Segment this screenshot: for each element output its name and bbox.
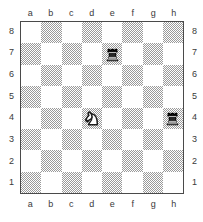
rank-label-right-6: 6 (189, 70, 200, 79)
file-label-bottom-c: c (66, 200, 77, 209)
rank-label-left-2: 2 (6, 157, 17, 166)
rank-label-right-1: 1 (189, 178, 200, 187)
file-label-bottom-d: d (86, 200, 97, 209)
black-rook-e7[interactable] (102, 43, 122, 64)
board-square-d5[interactable] (82, 86, 102, 107)
file-label-bottom-b: b (45, 200, 56, 209)
board-square-e8[interactable] (102, 22, 122, 43)
board-square-e7[interactable] (102, 43, 122, 64)
board-square-c6[interactable] (62, 65, 82, 86)
file-label-bottom-e: e (107, 200, 118, 209)
rank-label-left-1: 1 (6, 178, 17, 187)
board-square-f7[interactable] (122, 43, 142, 64)
board-square-g7[interactable] (143, 43, 163, 64)
board-square-g2[interactable] (143, 150, 163, 171)
rank-label-right-4: 4 (189, 113, 200, 122)
board-square-h5[interactable] (163, 86, 183, 107)
board-square-e5[interactable] (102, 86, 122, 107)
rank-label-left-8: 8 (6, 27, 17, 36)
board-square-c1[interactable] (62, 172, 82, 193)
board-square-f6[interactable] (122, 65, 142, 86)
board-square-d1[interactable] (82, 172, 102, 193)
board-square-f4[interactable] (122, 108, 142, 129)
file-label-bottom-f: f (127, 200, 138, 209)
board-grid (21, 22, 183, 193)
black-rook-h4[interactable] (163, 108, 183, 129)
file-label-top-b: b (45, 9, 56, 18)
board-square-g6[interactable] (143, 65, 163, 86)
board-square-a2[interactable] (21, 150, 41, 171)
board-square-d3[interactable] (82, 129, 102, 150)
rank-label-right-5: 5 (189, 92, 200, 101)
board-square-c4[interactable] (62, 108, 82, 129)
board-square-g4[interactable] (143, 108, 163, 129)
file-label-bottom-a: a (25, 200, 36, 209)
board-square-f5[interactable] (122, 86, 142, 107)
rank-label-left-3: 3 (6, 135, 17, 144)
file-label-top-g: g (148, 9, 159, 18)
board-square-h8[interactable] (163, 22, 183, 43)
chess-diagram: abcdefgh abcdefgh 87654321 87654321 (0, 0, 203, 222)
board-square-a7[interactable] (21, 43, 41, 64)
board-square-h1[interactable] (163, 172, 183, 193)
board-square-b4[interactable] (41, 108, 61, 129)
board-square-b5[interactable] (41, 86, 61, 107)
rank-label-left-7: 7 (6, 48, 17, 57)
file-label-top-f: f (127, 9, 138, 18)
board-square-a6[interactable] (21, 65, 41, 86)
board-square-h4[interactable] (163, 108, 183, 129)
white-knight-d4[interactable] (82, 108, 102, 129)
board-square-g3[interactable] (143, 129, 163, 150)
board-square-g1[interactable] (143, 172, 163, 193)
board-square-h7[interactable] (163, 43, 183, 64)
board-square-e4[interactable] (102, 108, 122, 129)
board-square-a4[interactable] (21, 108, 41, 129)
rank-label-left-6: 6 (6, 70, 17, 79)
board-square-d8[interactable] (82, 22, 102, 43)
file-label-top-a: a (25, 9, 36, 18)
board-square-f1[interactable] (122, 172, 142, 193)
board-square-b8[interactable] (41, 22, 61, 43)
board-square-b1[interactable] (41, 172, 61, 193)
chess-board (20, 21, 184, 194)
file-label-top-h: h (168, 9, 179, 18)
file-label-bottom-h: h (168, 200, 179, 209)
board-square-f8[interactable] (122, 22, 142, 43)
board-square-b2[interactable] (41, 150, 61, 171)
board-square-e2[interactable] (102, 150, 122, 171)
board-square-g8[interactable] (143, 22, 163, 43)
rank-label-right-7: 7 (189, 48, 200, 57)
board-square-h3[interactable] (163, 129, 183, 150)
board-square-a1[interactable] (21, 172, 41, 193)
board-square-c5[interactable] (62, 86, 82, 107)
board-square-c7[interactable] (62, 43, 82, 64)
board-square-e6[interactable] (102, 65, 122, 86)
board-square-d6[interactable] (82, 65, 102, 86)
rank-label-right-2: 2 (189, 157, 200, 166)
board-square-c8[interactable] (62, 22, 82, 43)
board-square-a8[interactable] (21, 22, 41, 43)
board-square-b7[interactable] (41, 43, 61, 64)
board-square-f2[interactable] (122, 150, 142, 171)
rank-label-left-5: 5 (6, 92, 17, 101)
board-square-g5[interactable] (143, 86, 163, 107)
board-square-h6[interactable] (163, 65, 183, 86)
file-label-top-d: d (86, 9, 97, 18)
file-label-top-c: c (66, 9, 77, 18)
board-square-a5[interactable] (21, 86, 41, 107)
rank-label-right-8: 8 (189, 27, 200, 36)
board-square-d2[interactable] (82, 150, 102, 171)
board-square-d4[interactable] (82, 108, 102, 129)
board-square-e1[interactable] (102, 172, 122, 193)
board-square-h2[interactable] (163, 150, 183, 171)
board-square-c3[interactable] (62, 129, 82, 150)
board-square-f3[interactable] (122, 129, 142, 150)
rank-label-left-4: 4 (6, 113, 17, 122)
board-square-d7[interactable] (82, 43, 102, 64)
file-label-bottom-g: g (148, 200, 159, 209)
board-square-e3[interactable] (102, 129, 122, 150)
board-square-b6[interactable] (41, 65, 61, 86)
board-square-c2[interactable] (62, 150, 82, 171)
board-square-a3[interactable] (21, 129, 41, 150)
board-square-b3[interactable] (41, 129, 61, 150)
